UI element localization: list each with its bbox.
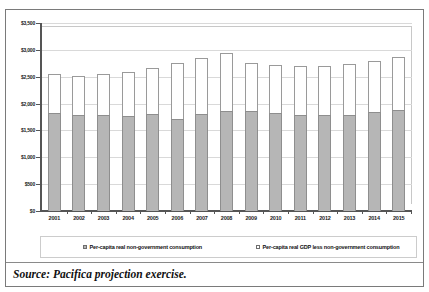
x-axis-tick-label: 2014 — [361, 215, 387, 221]
bar-segment-consumption[interactable] — [97, 115, 110, 211]
stacked-bar[interactable] — [122, 72, 135, 211]
x-axis-tick — [288, 210, 289, 214]
x-axis-tick — [214, 210, 215, 214]
bar-segment-consumption[interactable] — [269, 113, 282, 211]
bar-column[interactable] — [165, 23, 190, 211]
bar-segment-consumption[interactable] — [294, 115, 307, 211]
legend-swatch-gray-icon — [83, 245, 87, 249]
stacked-bar[interactable] — [269, 65, 282, 211]
bar-segment-gdp-less-consumption[interactable] — [368, 61, 381, 112]
bar-segment-consumption[interactable] — [245, 111, 258, 211]
bar-segment-consumption[interactable] — [343, 115, 356, 211]
x-axis-tick-label: 2009 — [238, 215, 264, 221]
legend-item-gdp-less-consumption: Per-capita real GDP less non-government … — [256, 244, 399, 250]
x-axis-tick-label: 2013 — [337, 215, 363, 221]
bar-segment-gdp-less-consumption[interactable] — [294, 66, 307, 115]
x-axis-tick-label: 2007 — [189, 215, 215, 221]
y-axis-tick-label: $3,000 — [14, 47, 35, 53]
bar-segment-gdp-less-consumption[interactable] — [97, 74, 110, 116]
x-axis-tick-label: 2001 — [41, 215, 67, 221]
x-axis-tick — [411, 210, 412, 214]
chart-legend: Per-capita real non-government consumpti… — [40, 236, 417, 258]
x-axis-tick-label: 2010 — [263, 215, 289, 221]
bar-segment-consumption[interactable] — [122, 116, 135, 211]
y-axis-tick-label: $500 — [14, 181, 35, 187]
bar-segment-gdp-less-consumption[interactable] — [392, 57, 405, 110]
stacked-bar[interactable] — [294, 66, 307, 211]
bar-column[interactable] — [337, 23, 362, 211]
stacked-bar[interactable] — [48, 74, 61, 211]
bar-segment-gdp-less-consumption[interactable] — [122, 72, 135, 116]
bar-column[interactable] — [67, 23, 92, 211]
stacked-bar[interactable] — [318, 66, 331, 211]
bar-segment-consumption[interactable] — [146, 114, 159, 211]
legend-label-gdp-less-consumption: Per-capita real GDP less non-government … — [263, 244, 400, 250]
bar-column[interactable] — [386, 23, 411, 211]
bar-segment-gdp-less-consumption[interactable] — [318, 66, 331, 115]
source-divider — [6, 262, 423, 263]
x-axis-tick — [386, 210, 387, 214]
legend-swatch-white-icon — [256, 245, 260, 249]
x-axis-tick — [239, 210, 240, 214]
x-axis-tick-label: 2004 — [115, 215, 141, 221]
bar-column[interactable] — [116, 23, 141, 211]
stacked-bar[interactable] — [97, 74, 110, 212]
x-axis-tick-label: 2008 — [214, 215, 240, 221]
x-axis-tick — [362, 210, 363, 214]
bar-column[interactable] — [313, 23, 338, 211]
bar-segment-consumption[interactable] — [392, 110, 405, 211]
x-axis-tick-label: 2002 — [66, 215, 92, 221]
x-axis-tick-label: 2006 — [164, 215, 190, 221]
bar-column[interactable] — [263, 23, 288, 211]
bar-segment-gdp-less-consumption[interactable] — [48, 74, 61, 113]
bar-segment-gdp-less-consumption[interactable] — [220, 53, 233, 112]
bar-series-group — [42, 23, 411, 211]
bar-column[interactable] — [140, 23, 165, 211]
figure-container: $0$500$1,000$1,500$2,000$2,500$3,000$3,5… — [0, 0, 429, 292]
stacked-bar[interactable] — [368, 61, 381, 211]
bar-segment-consumption[interactable] — [368, 112, 381, 211]
stacked-bar[interactable] — [146, 68, 159, 211]
bar-segment-gdp-less-consumption[interactable] — [343, 64, 356, 114]
cutoff-title — [0, 0, 429, 8]
legend-item-consumption: Per-capita real non-government consumpti… — [83, 244, 202, 250]
bar-segment-consumption[interactable] — [48, 113, 61, 211]
bar-column[interactable] — [190, 23, 215, 211]
y-axis-tick-label: $0 — [14, 208, 35, 214]
stacked-bar[interactable] — [171, 63, 184, 211]
x-axis-tick — [190, 210, 191, 214]
bar-column[interactable] — [214, 23, 239, 211]
stacked-bar[interactable] — [72, 76, 85, 211]
bar-segment-consumption[interactable] — [318, 115, 331, 211]
bar-segment-consumption[interactable] — [195, 114, 208, 211]
x-axis-tick-label: 2012 — [312, 215, 338, 221]
bar-column[interactable] — [239, 23, 264, 211]
x-axis-tick — [140, 210, 141, 214]
x-axis-tick-label: 2011 — [287, 215, 313, 221]
bar-column[interactable] — [91, 23, 116, 211]
figure-frame: $0$500$1,000$1,500$2,000$2,500$3,000$3,5… — [5, 9, 424, 287]
bar-segment-gdp-less-consumption[interactable] — [146, 68, 159, 114]
x-axis-tick — [313, 210, 314, 214]
bar-segment-gdp-less-consumption[interactable] — [72, 76, 85, 115]
bar-segment-gdp-less-consumption[interactable] — [245, 63, 258, 111]
y-axis-tick-label: $3,500 — [14, 20, 35, 26]
stacked-bar[interactable] — [195, 58, 208, 211]
y-axis-tick-label: $1,500 — [14, 127, 35, 133]
bar-segment-consumption[interactable] — [72, 115, 85, 211]
bar-column[interactable] — [362, 23, 387, 211]
y-axis-tick-label: $2,000 — [14, 101, 35, 107]
bar-column[interactable] — [288, 23, 313, 211]
stacked-bar[interactable] — [343, 64, 356, 211]
x-axis-tick — [91, 210, 92, 214]
bar-column[interactable] — [42, 23, 67, 211]
stacked-bar[interactable] — [392, 57, 405, 211]
bar-segment-consumption[interactable] — [220, 111, 233, 211]
stacked-bar[interactable] — [245, 63, 258, 211]
bar-segment-gdp-less-consumption[interactable] — [171, 63, 184, 119]
stacked-bar[interactable] — [220, 53, 233, 211]
bar-segment-gdp-less-consumption[interactable] — [269, 65, 282, 113]
bar-segment-consumption[interactable] — [171, 119, 184, 211]
x-axis-tick-label: 2003 — [91, 215, 117, 221]
bar-segment-gdp-less-consumption[interactable] — [195, 58, 208, 114]
